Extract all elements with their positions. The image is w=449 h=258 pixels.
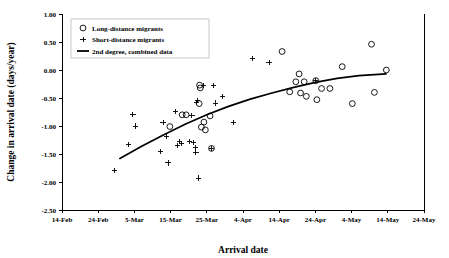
x-axis-title: Arrival date [218,245,268,255]
data-point-short-distance [133,123,138,128]
data-point-long-distance [303,93,309,99]
x-tick-label: 25-Mar [196,216,219,224]
data-point-long-distance [201,119,207,125]
regression-line [120,74,386,159]
y-tick-label: -2.50 [41,207,56,215]
x-tick-label: 24-Apr [305,216,326,224]
data-point-short-distance [231,120,236,125]
y-tick-label: -2.00 [41,179,56,187]
data-point-short-distance [173,109,178,114]
data-point-long-distance [383,67,389,73]
data-point-long-distance [293,79,299,85]
legend-label: Short-distance migrants [92,36,164,44]
y-tick-label: -1.50 [41,151,56,159]
data-point-short-distance [165,160,170,165]
chart-figure: 1.000.500.00-0.50-1.00-1.50-2.00-2.50 14… [0,0,449,258]
data-point-short-distance [266,60,271,65]
y-tick-label: 0.50 [44,39,57,47]
data-point-short-distance [193,145,198,150]
data-point-long-distance [183,112,189,118]
x-tick-label: 15-Mar [159,216,182,224]
data-point-short-distance [160,120,165,125]
data-point-short-distance [158,149,163,154]
fit-curve [120,74,386,159]
data-point-long-distance [298,90,304,96]
x-tick-label: 14-Apr [269,216,290,224]
chart-legend: Long-distance migrantsShort-distance mig… [71,19,209,58]
data-point-short-distance [211,83,216,88]
data-point-short-distance [193,150,198,155]
data-point-long-distance [319,86,325,92]
data-point-short-distance [196,175,201,180]
x-tick-label: 4-Apr [234,216,252,224]
y-axis-ticks: 1.000.500.00-0.50-1.00-1.50-2.00-2.50 [41,11,62,215]
y-axis-title: Change in arrival date (days/year) [6,42,17,181]
data-point-short-distance [130,112,135,117]
data-point-short-distance [213,100,218,105]
x-tick-label: 24-Feb [88,216,109,224]
data-point-short-distance [112,168,117,173]
y-tick-label: -0.50 [41,95,56,103]
x-tick-label: 24-May [413,216,436,224]
data-point-long-distance [327,86,333,92]
data-point-long-distance [349,101,355,107]
data-point-long-distance [301,79,307,85]
data-point-long-distance [296,71,302,77]
y-tick-label: 0.00 [44,67,57,75]
y-tick-label: -1.00 [41,123,56,131]
data-point-long-distance [287,89,293,95]
data-points [112,41,390,180]
x-tick-label: 14-May [376,216,399,224]
data-point-short-distance [250,56,255,61]
data-point-short-distance [220,94,225,99]
scatter-plot: 1.000.500.00-0.50-1.00-1.50-2.00-2.50 14… [0,0,449,258]
x-tick-label: 4-May [342,216,362,224]
legend-label: 2nd degree, combined data [92,48,173,56]
x-tick-label: 5-Mar [125,216,144,224]
data-point-long-distance [167,124,173,130]
data-point-long-distance [372,90,378,96]
data-point-short-distance [126,142,131,147]
data-point-long-distance [339,64,345,70]
data-point-long-distance [314,97,320,103]
data-point-short-distance [189,113,194,118]
data-point-long-distance [279,49,285,55]
legend-label: Long-distance migrants [92,25,163,33]
data-point-long-distance [369,41,375,47]
y-tick-label: 1.00 [44,11,57,19]
data-point-long-distance [202,127,208,133]
x-axis-ticks: 14-Feb24-Feb5-Mar15-Mar25-Mar4-Apr14-Apr… [52,210,436,224]
x-tick-label: 14-Feb [52,216,73,224]
